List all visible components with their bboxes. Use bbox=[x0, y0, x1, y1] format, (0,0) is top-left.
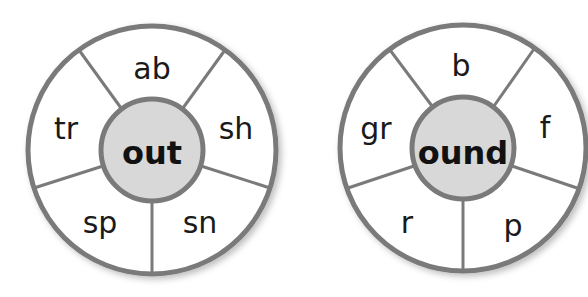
segment-bottom-left: sp bbox=[83, 205, 118, 240]
segment-bottom-right: p bbox=[503, 208, 522, 243]
segment-left: gr bbox=[360, 111, 392, 146]
word-wheel-ound: ound b f p r gr bbox=[340, 25, 586, 272]
segment-bottom-left: r bbox=[401, 205, 414, 240]
segment-right: f bbox=[540, 110, 552, 145]
segment-left: tr bbox=[54, 111, 79, 146]
segment-bottom-right: sn bbox=[183, 205, 218, 240]
segment-top: b bbox=[451, 48, 470, 83]
word-wheel-out: out ab sh sn sp tr bbox=[28, 26, 276, 274]
segment-right: sh bbox=[219, 111, 254, 146]
hub-text: out bbox=[122, 134, 182, 172]
segment-top: ab bbox=[133, 51, 170, 86]
word-wheels: out ab sh sn sp tr ound b f p r gr bbox=[0, 0, 588, 297]
hub-text: ound bbox=[418, 134, 508, 172]
